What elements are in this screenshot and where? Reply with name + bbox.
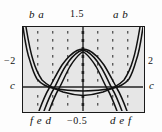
label-bottom-left: f e d: [30, 115, 51, 126]
plot-frame: [22, 26, 145, 113]
figure-container: b a 1.5 a b −2 2 c c f e d −0.5 d e f: [0, 0, 162, 132]
label-y-max: 1.5: [70, 9, 84, 19]
label-top-right: a b: [113, 9, 128, 20]
plot-canvas: [23, 27, 143, 111]
label-x-max: 2: [148, 56, 154, 66]
label-right-axis-letter: c: [149, 80, 154, 91]
label-y-min: −0.5: [67, 116, 87, 126]
label-x-min: −2: [4, 56, 16, 66]
label-left-axis-letter: c: [10, 80, 15, 91]
label-bottom-right: d e f: [110, 115, 131, 126]
label-top-left: b a: [29, 9, 44, 20]
